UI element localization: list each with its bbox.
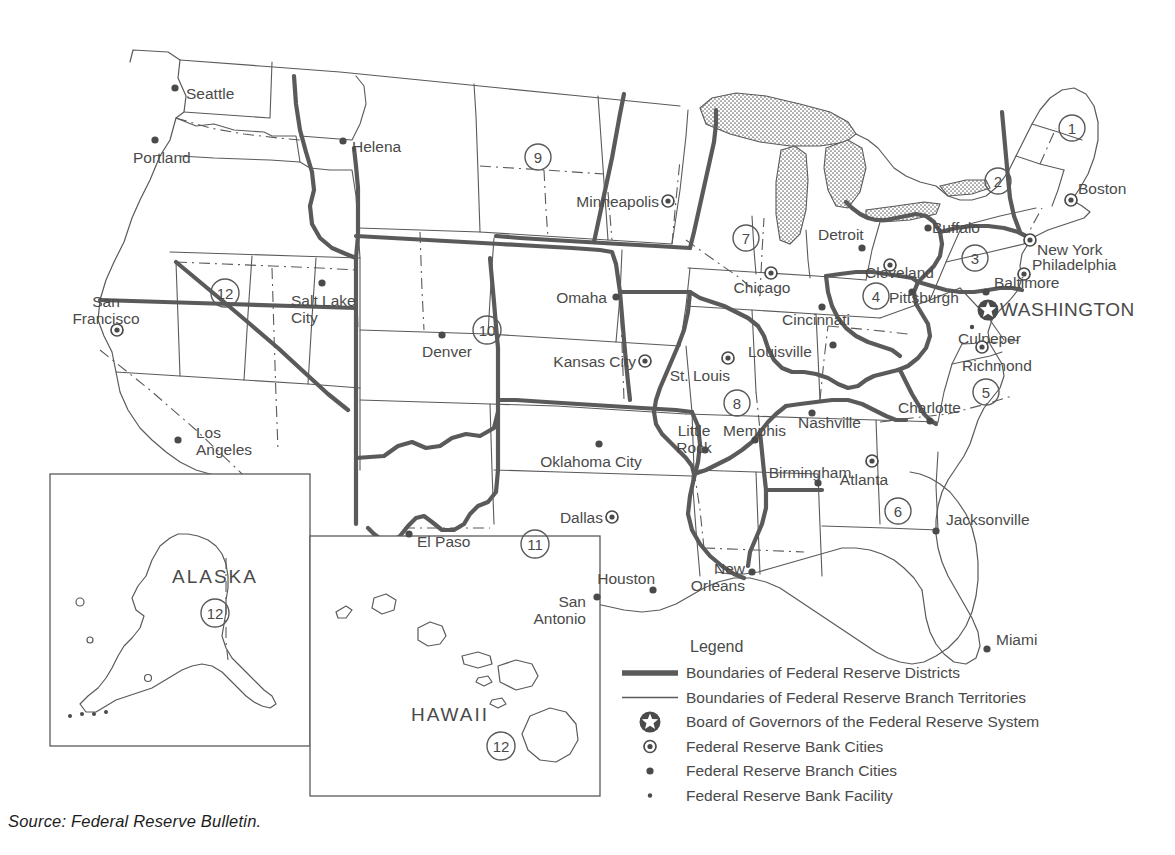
district-label-7: 7 <box>742 230 750 247</box>
legend-item-small-dot: Federal Reserve Bank Facility <box>648 787 893 804</box>
city-cleveland: Cleveland <box>865 259 934 281</box>
city-memphis: Memphis <box>723 422 786 444</box>
district-label-6: 6 <box>894 503 902 520</box>
city-detroit-branch-marker <box>858 244 865 251</box>
city-salt-lake-city: Salt LakeCity <box>291 279 356 326</box>
legend-facility-icon <box>648 793 652 797</box>
federal-reserve-districts-map: SeattlePortlandHelenaSanFranciscoLosAnge… <box>0 0 1175 855</box>
gulf-coast-florida <box>716 548 922 590</box>
legend-label-thin-line: Boundaries of Federal Reserve Branch Ter… <box>686 689 1026 706</box>
district-9-10-boundary <box>356 236 620 292</box>
city-label-culpeper: Culpeper <box>958 330 1021 347</box>
district-number-9: 9 <box>525 144 551 170</box>
city-st-louis-bank-marker-core <box>725 355 730 360</box>
city-helena-branch-marker <box>339 137 346 144</box>
city-boston-bank-marker-core <box>1068 197 1073 202</box>
city-label-houston: Houston <box>597 570 655 587</box>
legend-item-star-in-circle: Board of Governors of the Federal Reserv… <box>640 712 1040 733</box>
city-label-memphis: Memphis <box>723 422 786 439</box>
city-st-louis: St. Louis <box>670 352 734 384</box>
legend-label-small-dot: Federal Reserve Bank Facility <box>686 787 893 804</box>
legend-label-star-in-circle: Board of Governors of the Federal Reserv… <box>686 713 1039 730</box>
legend-label-filled-dot: Federal Reserve Branch Cities <box>686 762 897 779</box>
city-salt-lake-city-branch-marker <box>318 279 325 286</box>
city-new-york: New York <box>1024 234 1103 258</box>
city-new-york-bank-marker-core <box>1027 237 1032 242</box>
city-label-st-louis: St. Louis <box>670 367 731 384</box>
city-san-antonio-branch-marker <box>593 593 600 600</box>
legend-label-dot-in-circle: Federal Reserve Bank Cities <box>686 738 884 755</box>
inset-alaska <box>50 474 310 746</box>
city-label-denver: Denver <box>422 343 472 360</box>
district-7-9-boundary <box>594 94 624 242</box>
lake-michigan <box>776 146 808 244</box>
legend-bank-city-core-icon <box>647 744 652 749</box>
city-jacksonville-branch-marker <box>932 527 939 534</box>
northern-border <box>180 60 680 106</box>
city-label-chicago: Chicago <box>734 279 791 296</box>
city-oklahoma-city: Oklahoma City <box>540 440 642 470</box>
district-number-6: 6 <box>885 498 911 524</box>
city-denver: Denver <box>422 331 472 360</box>
inset-district-label-alaska: 12 <box>207 605 224 622</box>
city-label-pittsburgh: Pittsburgh <box>889 289 959 306</box>
city-kansas-city-bank-marker-core <box>642 358 647 363</box>
city-label-kansas-city: Kansas City <box>553 353 636 370</box>
city-culpeper-facility-marker <box>970 325 974 329</box>
lake-huron <box>824 140 866 208</box>
district-label-2: 2 <box>994 173 1002 190</box>
city-label-los-angeles: LosAngeles <box>196 424 252 458</box>
map-canvas: SeattlePortlandHelenaSanFranciscoLosAnge… <box>0 0 1175 855</box>
city-label-charlotte: Charlotte <box>898 399 961 416</box>
city-label-jacksonville: Jacksonville <box>946 511 1030 528</box>
city-oklahoma-city-branch-marker <box>595 440 602 447</box>
district-label-4: 4 <box>872 288 880 305</box>
city-nashville: Nashville <box>798 409 861 431</box>
city-dallas: Dallas <box>560 509 618 526</box>
city-denver-branch-marker <box>438 331 445 338</box>
city-san-francisco-bank-marker-core <box>114 327 119 332</box>
district-number-7: 7 <box>733 225 759 251</box>
city-detroit: Detroit <box>818 226 866 252</box>
city-seattle-branch-marker <box>171 84 178 91</box>
city-omaha: Omaha <box>556 289 619 306</box>
city-label-helena: Helena <box>352 138 401 155</box>
city-label-cleveland: Cleveland <box>865 264 934 281</box>
inset-district-label-hawaii: 12 <box>493 738 510 755</box>
city-label-miami: Miami <box>996 631 1037 648</box>
city-louisville-branch-marker <box>829 341 836 348</box>
city-label-san-francisco: SanFrancisco <box>72 293 139 327</box>
city-label-portland: Portland <box>133 149 191 166</box>
city-label-boston: Boston <box>1078 180 1126 197</box>
district-label-9: 9 <box>534 149 542 166</box>
city-label-louisville: Louisville <box>748 343 812 360</box>
district-label-10: 10 <box>479 322 496 339</box>
legend-items: Boundaries of Federal Reserve DistrictsB… <box>622 664 1039 804</box>
city-los-angeles: LosAngeles <box>174 424 252 458</box>
city-little-rock: LittleRock <box>676 422 712 456</box>
city-charlotte-branch-marker <box>926 417 933 424</box>
legend-title: Legend <box>690 638 743 655</box>
city-minneapolis: Minneapolis <box>576 193 674 210</box>
city-label-washington: WASHINGTON <box>1000 299 1135 320</box>
city-kansas-city: Kansas City <box>553 353 651 370</box>
district-label-12: 12 <box>217 285 234 302</box>
district-11-boundary <box>356 400 692 458</box>
city-label-seattle: Seattle <box>186 85 234 102</box>
city-richmond-bank-marker-core <box>979 344 984 349</box>
city-buffalo-branch-marker <box>924 224 931 231</box>
district-number-8: 8 <box>724 390 750 416</box>
district-number-4: 4 <box>863 283 889 309</box>
city-label-atlanta: Atlanta <box>840 471 889 488</box>
inset-hawaii <box>310 536 600 796</box>
city-label-richmond: Richmond <box>962 357 1032 374</box>
inset-name-alaska: ALASKA <box>172 566 258 587</box>
district-label-8: 8 <box>733 395 741 412</box>
city-label-detroit: Detroit <box>818 226 864 243</box>
district-number-layer: 123456789101112 <box>211 115 1085 558</box>
legend: Legend Boundaries of Federal Reserve Dis… <box>622 638 1039 804</box>
city-label-omaha: Omaha <box>556 289 607 306</box>
city-seattle: Seattle <box>171 84 234 102</box>
city-portland: Portland <box>133 136 191 166</box>
district-label-3: 3 <box>971 250 979 267</box>
